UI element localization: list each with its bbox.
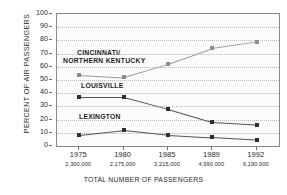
y-tick-label: 0 (26, 141, 48, 149)
y-tick-mark (49, 79, 52, 80)
y-tick-label: 90 (26, 22, 48, 30)
x-axis-title: TOTAL NUMBER OF PASSENGERS (0, 176, 287, 183)
y-tick-mark (49, 145, 52, 146)
chart-figure: PERCENT OF AIR PASSENGERS 10090807060504… (0, 0, 287, 195)
y-tick-label: 10 (26, 128, 48, 136)
y-tick-label: 50 (26, 75, 48, 83)
y-tick-label: 70 (26, 49, 48, 57)
annotation-louisville: LOUISVILLE (81, 82, 124, 90)
y-tick-label: 40 (26, 88, 48, 96)
annotation-cincinnati-line1: CINCINNATI/ (77, 49, 120, 57)
y-tick-mark (49, 119, 52, 120)
y-tick-mark (49, 53, 52, 54)
y-tick-mark (49, 132, 52, 133)
y-tick-mark (49, 39, 52, 40)
y-tick-label: 80 (26, 35, 48, 43)
y-tick-mark (49, 66, 52, 67)
y-tick-mark (49, 13, 52, 14)
y-tick-mark (49, 105, 52, 106)
y-tick-label: 60 (26, 62, 48, 70)
plot-area: CINCINNATI/NORTHERN KENTUCKYLOUISVILLELE… (56, 13, 280, 147)
x-tick-year: 1992 (227, 150, 285, 160)
annotation-cincinnati-line2: NORTHERN KENTUCKY (63, 57, 145, 65)
x-tick-group: 19926,190,000 (227, 150, 285, 169)
y-tick-mark (49, 26, 52, 27)
y-tick-mark (49, 92, 52, 93)
y-axis-tick-labels: 1009080706050403020100 (26, 9, 48, 146)
y-tick-label: 20 (26, 115, 48, 123)
x-tick-passenger-count: 6,190,000 (227, 160, 285, 169)
y-tick-label: 100 (26, 9, 48, 17)
y-tick-label: 30 (26, 101, 48, 109)
series-annotations: CINCINNATI/NORTHERN KENTUCKYLOUISVILLELE… (57, 14, 279, 146)
x-axis-tick-labels: 19752,300,00019802,175,00019853,215,0001… (56, 150, 278, 174)
annotation-lexington: LEXINGTON (79, 113, 121, 121)
